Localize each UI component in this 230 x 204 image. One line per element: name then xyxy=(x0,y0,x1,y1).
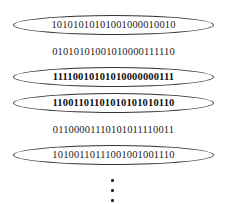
binary-row-6: 10100110111001001001110 xyxy=(0,145,230,167)
binary-row-5: 01100001110101011110011 xyxy=(0,120,230,142)
binary-string: 11110010101010000000111 xyxy=(0,70,227,84)
binary-string: 10100110111001001001110 xyxy=(0,148,227,162)
binary-string: 01010101001010000111110 xyxy=(0,45,227,59)
binary-row-3: 11110010101010000000111 xyxy=(0,67,230,89)
binary-row-2: 01010101001010000111110 xyxy=(0,42,230,64)
binary-string: 01100001110101011110011 xyxy=(0,123,227,137)
binary-string: 11001101101010101010110 xyxy=(0,96,227,110)
binary-row-1: 10101010101001000010010 xyxy=(0,15,230,37)
binary-row-4: 11001101101010101010110 xyxy=(0,93,230,115)
binary-string: 10101010101001000010010 xyxy=(0,18,227,32)
